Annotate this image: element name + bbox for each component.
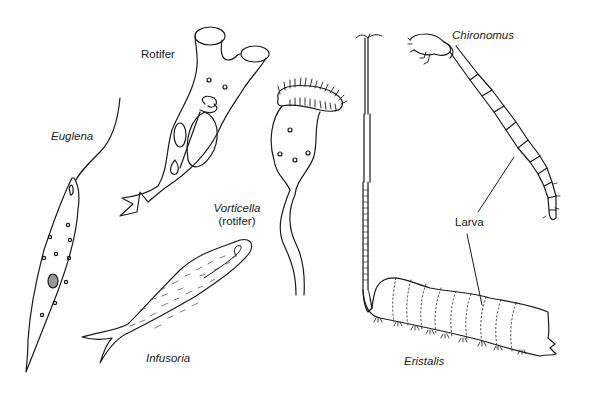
infusoria-drawing xyxy=(82,240,252,364)
label-vorticella: Vorticella (rotifer) xyxy=(209,202,265,228)
label-eristalis: Eristalis xyxy=(404,355,444,368)
euglena-nucleus xyxy=(48,274,58,288)
eristalis-segment-lines xyxy=(393,278,516,351)
eristalis-drawing xyxy=(356,34,556,356)
label-vorticella-name: Vorticella xyxy=(209,202,265,215)
label-larva: Larva xyxy=(455,216,484,229)
label-euglena: Euglena xyxy=(51,130,93,143)
larva-callout-lines xyxy=(467,157,514,305)
label-infusoria: Infusoria xyxy=(146,352,190,365)
label-vorticella-sublabel: (rotifer) xyxy=(209,215,265,228)
diagram-canvas: Euglena Rotifer Vorticella (rotifer) Inf… xyxy=(0,0,592,397)
chironomus-drawing xyxy=(408,34,560,220)
euglena-granules xyxy=(40,223,71,316)
vorticella-drawing xyxy=(271,78,347,295)
organism-illustrations xyxy=(0,0,592,397)
label-rotifer: Rotifer xyxy=(141,48,175,61)
eristalis-prolegs xyxy=(374,318,526,354)
label-chironomus: Chironomus xyxy=(452,29,514,42)
